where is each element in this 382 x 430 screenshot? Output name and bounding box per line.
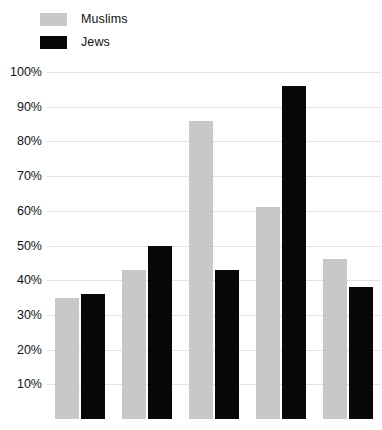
legend-swatch-muslims [40, 13, 67, 26]
y-axis-tick-label: 90% [0, 101, 42, 113]
y-axis-tick-label: 50% [0, 240, 42, 252]
bar-jews-1[interactable] [81, 294, 105, 419]
bar-muslims-3[interactable] [189, 121, 213, 419]
y-axis-tick-label: 100% [0, 66, 42, 78]
gridline [47, 246, 381, 247]
gridline [47, 72, 381, 73]
bar-jews-3[interactable] [215, 270, 239, 419]
legend-item-label: Muslims [81, 13, 128, 26]
y-axis-tick-label: 60% [0, 205, 42, 217]
plot-area [47, 72, 381, 419]
bar-muslims-5[interactable] [323, 259, 347, 419]
bar-muslims-2[interactable] [122, 270, 146, 419]
legend-item[interactable]: Jews [40, 34, 240, 51]
y-axis-tick-label: 40% [0, 274, 42, 286]
gridline [47, 211, 381, 212]
bar-jews-2[interactable] [148, 246, 172, 420]
y-axis-tick-label: 80% [0, 135, 42, 147]
gridline [47, 176, 381, 177]
bar-muslims-1[interactable] [55, 298, 79, 419]
chart-legend: MuslimsJews [40, 11, 240, 57]
bar-muslims-4[interactable] [256, 207, 280, 419]
bar-chart: MuslimsJews 10%20%30%40%50%60%70%80%90%1… [0, 0, 382, 430]
bar-jews-5[interactable] [349, 287, 373, 419]
bar-jews-4[interactable] [282, 86, 306, 419]
legend-swatch-jews [40, 36, 67, 49]
legend-item[interactable]: Muslims [40, 11, 240, 28]
y-axis-tick-label: 30% [0, 309, 42, 321]
y-axis-tick-label: 70% [0, 170, 42, 182]
y-axis-tick-label: 20% [0, 344, 42, 356]
legend-item-label: Jews [81, 36, 110, 49]
gridline [47, 107, 381, 108]
gridline [47, 141, 381, 142]
y-axis-tick-label: 10% [0, 378, 42, 390]
